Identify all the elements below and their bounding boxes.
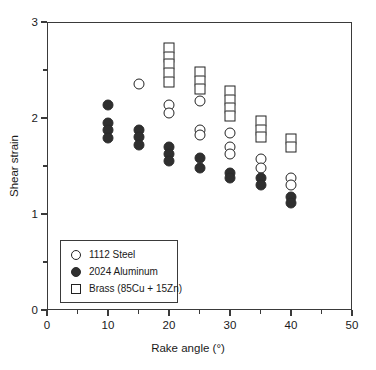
data-point (164, 156, 175, 167)
data-point (194, 130, 205, 141)
data-point (103, 133, 114, 144)
x-tick-minor (260, 310, 261, 314)
x-tick-major (290, 310, 291, 316)
legend-label-aluminum: 2024 Aluminum (89, 266, 158, 277)
data-point (194, 84, 205, 95)
x-tick-label: 30 (224, 319, 237, 331)
data-point (133, 139, 144, 150)
legend-item-brass: Brass (85Cu + 15Zn) (67, 280, 171, 297)
y-tick-label: 3 (32, 16, 38, 28)
y-axis-title: Shear strain (8, 135, 20, 197)
y-tick-major (41, 213, 47, 214)
x-tick-label: 10 (102, 319, 115, 331)
x-tick-major (46, 310, 47, 316)
legend-label-brass: Brass (85Cu + 15Zn) (89, 283, 182, 294)
legend-label-steel: 1112 Steel (89, 249, 135, 260)
x-tick-label: 20 (163, 319, 176, 331)
legend-item-aluminum: 2024 Aluminum (67, 263, 171, 280)
chart-container: 012301020304050 Rake angle (°) Shear str… (0, 0, 376, 370)
x-tick-label: 40 (285, 319, 298, 331)
x-tick-minor (321, 310, 322, 314)
data-point (225, 111, 236, 122)
y-tick-label: 2 (32, 112, 38, 124)
data-point (225, 149, 236, 160)
data-point (255, 180, 266, 191)
y-tick-minor (43, 165, 47, 166)
x-tick-minor (199, 310, 200, 314)
x-tick-major (351, 310, 352, 316)
x-tick-minor (138, 310, 139, 314)
legend: 1112 Steel 2024 Aluminum Brass (85Cu + 1… (60, 240, 178, 303)
data-point (225, 128, 236, 139)
data-point (286, 141, 297, 152)
data-point (286, 180, 297, 191)
data-point (103, 99, 114, 110)
data-point (194, 95, 205, 106)
data-point (286, 198, 297, 209)
x-tick-minor (77, 310, 78, 314)
y-tick-minor (43, 69, 47, 70)
x-tick-major (107, 310, 108, 316)
data-point (194, 162, 205, 173)
y-tick-label: 0 (32, 304, 38, 316)
data-point (133, 79, 144, 90)
data-point (164, 108, 175, 119)
y-tick-major (41, 117, 47, 118)
data-point (255, 132, 266, 143)
x-tick-label: 0 (44, 319, 50, 331)
data-point (225, 172, 236, 183)
circle-open-icon (67, 250, 85, 260)
circle-filled-icon (67, 267, 85, 277)
x-tick-label: 50 (346, 319, 359, 331)
square-open-icon (67, 284, 85, 294)
y-tick-label: 1 (32, 208, 38, 220)
y-tick-major (41, 21, 47, 22)
y-tick-minor (43, 261, 47, 262)
x-axis-title: Rake angle (°) (0, 342, 376, 354)
data-point (164, 76, 175, 87)
legend-item-steel: 1112 Steel (67, 246, 171, 263)
x-tick-major (229, 310, 230, 316)
x-tick-major (168, 310, 169, 316)
